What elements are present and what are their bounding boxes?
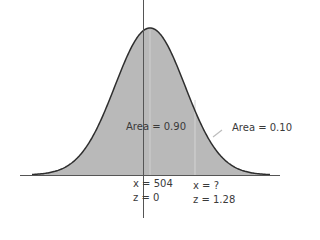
area-right-label: Area = 0.10 [232,122,292,134]
area-left-label: Area = 0.90 [126,121,186,133]
area-pointer-line [213,130,222,137]
cutoff-x-label: x = ? [193,180,219,192]
mean-x-label: x = 504 [133,178,173,190]
cutoff-z-label: z = 1.28 [193,194,235,206]
mean-z-label: z = 0 [133,192,159,204]
shaded-area [32,28,270,175]
